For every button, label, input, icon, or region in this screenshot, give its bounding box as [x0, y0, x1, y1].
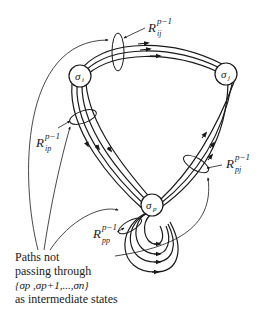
caption: Paths not passing through {σp ,σp+1,...,… — [15, 250, 118, 306]
ellipse-ij — [112, 33, 124, 71]
svg-text:σ: σ — [75, 70, 81, 82]
caption-line-1: Paths not — [15, 250, 118, 264]
svg-text:p−1: p−1 — [234, 152, 250, 162]
node-sigma-i: σ i — [69, 65, 91, 87]
svg-text:i: i — [82, 76, 84, 84]
caption-line-2: passing through — [15, 264, 118, 278]
label-R-ij: R p−1 ij — [147, 16, 172, 38]
node-sigma-p: σ p — [141, 194, 163, 216]
svg-text:R: R — [35, 135, 44, 150]
node-sigma-j: σ j — [215, 63, 237, 85]
svg-text:p−1: p−1 — [156, 16, 172, 26]
caption-line-3: {σp ,σp+1,...,σn} — [15, 278, 118, 292]
svg-text:j: j — [227, 74, 230, 82]
label-R-pp: R p−1 pp — [92, 222, 117, 245]
svg-text:p−1: p−1 — [101, 222, 117, 232]
path-bundle-p-to-j — [160, 82, 234, 208]
label-R-pj: R p−1 pj — [225, 152, 250, 174]
svg-text:R: R — [147, 20, 156, 35]
svg-text:ip: ip — [45, 144, 51, 153]
svg-text:p: p — [152, 205, 157, 213]
path-bundle-i-to-j — [84, 43, 222, 74]
svg-text:p−1: p−1 — [44, 131, 60, 141]
svg-text:R: R — [92, 226, 101, 241]
svg-text:σ: σ — [146, 199, 152, 211]
svg-text:ij: ij — [157, 29, 162, 38]
svg-text:R: R — [225, 156, 234, 171]
svg-text:σ: σ — [221, 68, 227, 80]
svg-text:pj: pj — [234, 165, 242, 174]
path-bundle-i-to-p — [72, 84, 152, 212]
label-R-ip: R p−1 ip — [35, 131, 60, 153]
caption-pointer-curves — [29, 40, 209, 256]
ellipse-ip — [68, 107, 98, 128]
svg-text:pp: pp — [101, 236, 110, 245]
ellipse-pp — [116, 215, 144, 237]
caption-line-4: as intermediate states — [15, 292, 118, 306]
